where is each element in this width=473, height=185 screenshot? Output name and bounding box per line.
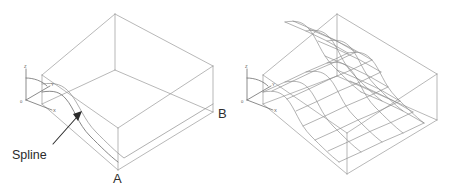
rtriad-arc bbox=[247, 78, 268, 86]
mesh-u-line bbox=[263, 91, 339, 162]
mesh-v-line bbox=[285, 22, 348, 53]
mesh-v-line bbox=[325, 56, 388, 87]
triad-arc bbox=[26, 78, 47, 86]
triad-x-label: X bbox=[53, 108, 56, 113]
box-top-edge-back-right bbox=[115, 14, 213, 66]
triad-origin-label: 0 bbox=[20, 99, 23, 104]
box-bottom-edge-front-right bbox=[118, 112, 213, 170]
corner-label-a: A bbox=[113, 171, 122, 185]
mesh-v-line bbox=[303, 87, 388, 126]
spline-leader-line bbox=[53, 117, 77, 144]
triad-z-label: Z bbox=[24, 64, 27, 69]
box-top-edge-back-left bbox=[42, 14, 115, 75]
rtriad-origin-label: 0 bbox=[241, 99, 244, 104]
box-bottom-edge-back-right bbox=[115, 70, 213, 112]
corner-label-b: B bbox=[218, 106, 227, 121]
spline-curve-group bbox=[42, 83, 213, 162]
rbox-top-edge-front-right bbox=[347, 74, 437, 133]
diagram-root: Z Y X 0 Spline A B bbox=[0, 0, 473, 185]
right-coordinate-triad: Z Y X 0 bbox=[241, 64, 277, 113]
spline-annotation: Spline bbox=[12, 111, 82, 162]
mesh-u-line bbox=[306, 30, 382, 101]
rtriad-z-label: Z bbox=[245, 64, 248, 69]
triad-y-axis bbox=[26, 86, 50, 100]
left-coordinate-triad: Z Y X 0 bbox=[20, 64, 56, 113]
triad-y-label: Y bbox=[51, 82, 54, 87]
rbox-bottom-edge-front-left bbox=[263, 104, 347, 174]
right-bounding-box bbox=[263, 14, 437, 174]
rtriad-y-axis bbox=[247, 86, 271, 100]
rbox-top-edge-back-right bbox=[337, 14, 437, 74]
left-figure: Z Y X 0 Spline A B bbox=[0, 0, 473, 185]
mesh-v-line bbox=[293, 21, 356, 52]
box-top-edge-front-right bbox=[118, 66, 213, 128]
rbox-bottom-edge-front-right bbox=[347, 120, 437, 174]
spline-surface-edge bbox=[42, 83, 213, 158]
box-bottom-edge-back-left bbox=[42, 70, 115, 104]
rtriad-x-label: X bbox=[274, 108, 277, 113]
mesh-v-line bbox=[339, 123, 424, 162]
left-bounding-box bbox=[42, 14, 213, 170]
rtriad-y-label: Y bbox=[272, 82, 275, 87]
mesh-v-line bbox=[315, 101, 400, 140]
mesh-v-line bbox=[296, 72, 381, 111]
spline-label: Spline bbox=[12, 148, 47, 162]
mesh-v-line bbox=[318, 41, 381, 72]
rbox-top-edge-front-left bbox=[263, 75, 347, 133]
